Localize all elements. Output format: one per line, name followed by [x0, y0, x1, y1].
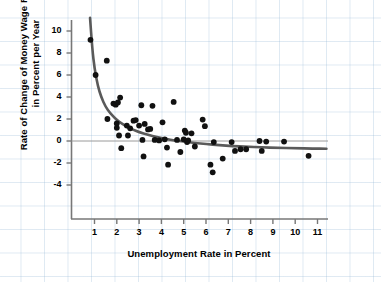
y-tick-label: 4 — [40, 91, 62, 101]
data-point — [156, 138, 162, 144]
data-point — [115, 100, 121, 106]
data-point — [243, 146, 249, 152]
data-point — [200, 117, 206, 123]
data-point — [117, 95, 123, 101]
data-point — [165, 162, 171, 168]
x-axis-title: Unemployment Rate in Percent — [71, 248, 327, 260]
data-point — [259, 148, 265, 154]
data-point — [93, 72, 99, 78]
x-tick-label: 4 — [153, 227, 169, 237]
x-tick-label: 11 — [310, 227, 326, 237]
y-tick-label: 0 — [40, 135, 62, 145]
y-tick-label: 6 — [40, 69, 62, 79]
data-point — [208, 162, 214, 168]
data-point — [105, 116, 111, 122]
data-point — [116, 133, 122, 139]
data-points-group — [88, 37, 312, 175]
data-point — [174, 137, 180, 143]
data-point — [114, 125, 120, 131]
data-point — [125, 133, 131, 139]
data-point — [164, 145, 170, 151]
data-point — [104, 58, 110, 64]
data-point — [118, 145, 124, 151]
y-tick-label: 10 — [40, 25, 62, 35]
data-point — [189, 130, 195, 136]
data-point — [232, 148, 238, 154]
data-point — [138, 102, 144, 108]
data-point — [229, 139, 235, 145]
data-point — [160, 119, 166, 125]
data-point — [133, 117, 139, 123]
data-point — [238, 146, 244, 152]
data-point — [162, 136, 168, 142]
data-point — [281, 139, 287, 145]
y-tick-label: -4 — [40, 179, 62, 189]
data-point — [177, 149, 183, 155]
data-point — [150, 103, 156, 109]
data-point — [136, 123, 142, 129]
phillips-curve-figure: Rate of Change of Money Wage Rates in Pe… — [0, 0, 381, 282]
x-tick-label: 8 — [243, 227, 259, 237]
data-point — [211, 139, 217, 145]
fitted-phillips-curve — [90, 18, 326, 149]
y-tick-label: 8 — [40, 47, 62, 57]
data-point — [192, 144, 198, 150]
y-axis-title: Rate of Change of Money Wage Rates in Pe… — [18, 0, 41, 153]
data-point — [183, 130, 189, 136]
data-point — [142, 121, 148, 127]
x-tick-label: 10 — [287, 227, 303, 237]
y-tick-label: 2 — [40, 113, 62, 123]
data-point — [127, 125, 133, 131]
x-tick-label: 7 — [220, 227, 236, 237]
data-point — [88, 37, 94, 43]
data-point — [202, 123, 208, 129]
x-tick-label: 1 — [87, 227, 103, 237]
data-point — [185, 138, 191, 144]
data-point — [141, 154, 147, 160]
x-tick-label: 2 — [109, 227, 125, 237]
data-point — [263, 139, 269, 145]
x-tick-label: 5 — [176, 227, 192, 237]
data-point — [257, 138, 263, 144]
data-point — [171, 99, 177, 105]
x-tick-label: 9 — [265, 227, 281, 237]
data-point — [306, 153, 312, 159]
data-point — [220, 156, 226, 162]
data-point — [210, 169, 216, 175]
x-tick-label: 6 — [198, 227, 214, 237]
x-tick-label: 3 — [131, 227, 147, 237]
data-point — [140, 137, 146, 143]
data-point — [147, 126, 153, 132]
y-tick-label: -2 — [40, 157, 62, 167]
